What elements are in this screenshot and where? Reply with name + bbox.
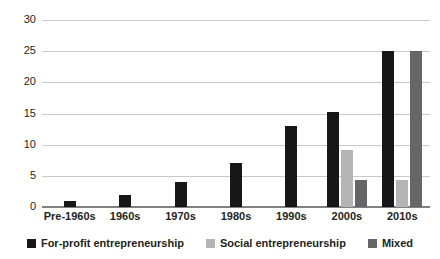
bar xyxy=(396,180,408,207)
x-axis: Pre-1960s1960s1970s1980s1990s2000s2010s xyxy=(42,209,430,227)
bar xyxy=(341,150,353,207)
bar xyxy=(327,112,339,207)
y-axis-tick-label: 20 xyxy=(2,76,36,87)
plot-area xyxy=(42,20,430,207)
bar-group xyxy=(42,20,97,207)
legend-item: For-profit entrepreneurship xyxy=(27,238,184,249)
bar xyxy=(410,51,422,207)
bar xyxy=(355,180,367,207)
bar xyxy=(119,195,131,207)
bar xyxy=(230,163,242,207)
y-axis-tick-label: 30 xyxy=(2,14,36,25)
x-axis-tick-label: 1990s xyxy=(264,209,319,223)
legend-swatch-icon xyxy=(206,239,215,248)
x-axis-tick-label: 2010s xyxy=(375,209,430,223)
bar xyxy=(285,126,297,207)
x-axis-tick-label: 1960s xyxy=(97,209,152,223)
y-axis-tick-label: 25 xyxy=(2,45,36,56)
bars-layer xyxy=(42,20,430,207)
legend-label: Social entrepreneurship xyxy=(220,238,346,249)
bar xyxy=(382,51,394,207)
y-axis-tick-label: 15 xyxy=(2,108,36,119)
bar-group xyxy=(97,20,152,207)
legend-label: For-profit entrepreneurship xyxy=(41,238,184,249)
legend-item: Social entrepreneurship xyxy=(206,238,346,249)
x-axis-tick-label: Pre-1960s xyxy=(42,209,97,223)
bar xyxy=(64,201,76,207)
y-axis-tick-label: 10 xyxy=(2,139,36,150)
y-axis: 051015202530 xyxy=(0,20,36,207)
chart-legend: For-profit entrepreneurshipSocial entrep… xyxy=(0,233,440,253)
x-axis-tick-label: 1970s xyxy=(153,209,208,223)
bar xyxy=(175,182,187,207)
bar-group xyxy=(153,20,208,207)
bar-group xyxy=(208,20,263,207)
bar-group xyxy=(319,20,374,207)
legend-swatch-icon xyxy=(368,239,377,248)
bar-group xyxy=(264,20,319,207)
legend-label: Mixed xyxy=(382,238,413,249)
legend-swatch-icon xyxy=(27,239,36,248)
x-axis-tick-label: 1980s xyxy=(208,209,263,223)
bar-group xyxy=(375,20,430,207)
legend-item: Mixed xyxy=(368,238,413,249)
bar-chart: 051015202530 Pre-1960s1960s1970s1980s199… xyxy=(0,0,440,259)
y-axis-tick-label: 0 xyxy=(2,201,36,212)
x-axis-tick-label: 2000s xyxy=(319,209,374,223)
y-axis-tick-label: 5 xyxy=(2,170,36,181)
